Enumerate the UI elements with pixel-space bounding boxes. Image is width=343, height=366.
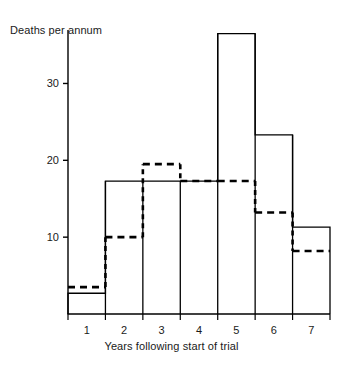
x-axis-tick-label: 4	[196, 324, 202, 336]
y-axis-tick-label: 20	[47, 154, 59, 166]
chart-plot-area: 1020301234567	[0, 0, 343, 366]
bars-layer	[68, 34, 330, 314]
y-axis-tick-label: 10	[47, 231, 59, 243]
chart-container: Deaths per annum Years following start o…	[0, 0, 343, 366]
x-axis-tick-label: 2	[121, 324, 127, 336]
x-axis-tick-label: 5	[233, 324, 239, 336]
x-axis-tick-label: 3	[159, 324, 165, 336]
axes-layer	[63, 30, 330, 320]
x-axis-tick-label: 7	[308, 324, 314, 336]
x-axis-tick-label: 6	[271, 324, 277, 336]
x-axis-tick-label: 1	[84, 324, 90, 336]
observed-histogram-outline	[68, 34, 330, 314]
y-axis-tick-label: 30	[47, 77, 59, 89]
expected-series-layer	[68, 164, 330, 287]
